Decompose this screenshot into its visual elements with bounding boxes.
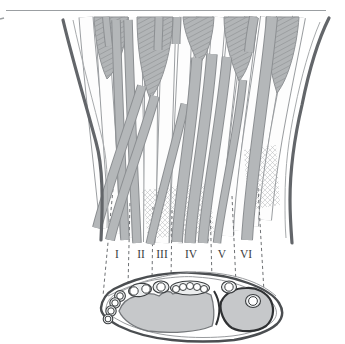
compartment-label-4: IV (185, 248, 198, 260)
anatomy-figure: I II III IV V VI (0, 0, 345, 344)
compartment-label-5: V (218, 248, 227, 260)
compartment-label-6: VI (240, 248, 252, 260)
ulna-bone (221, 288, 273, 331)
compartment-label-2: II (137, 248, 145, 260)
compartment-labels: I II III IV V VI (115, 248, 252, 260)
wrist-cross-section (101, 272, 282, 342)
compartment-label-1: I (115, 248, 119, 260)
figure-canvas: I II III IV V VI (0, 0, 345, 344)
left-edge-artifact (0, 18, 4, 19)
compartment-label-3: III (156, 248, 168, 260)
